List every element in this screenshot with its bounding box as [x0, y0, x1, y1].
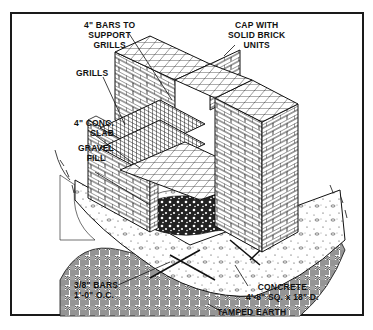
label-gravel-fill: GRAVEL FILL: [78, 143, 114, 163]
label-cap: CAP WITH SOLID BRICK UNITS: [228, 20, 285, 50]
label-line: TAMPED EARTH: [217, 307, 286, 317]
label-line: GRILLS: [76, 68, 108, 78]
label-concrete-footing: CONCRETE 4'-8" SQ. x 18" D.: [246, 282, 319, 302]
label-line: SUPPORT: [84, 30, 135, 40]
label-line: 4'-8" SQ. x 18" D.: [246, 292, 319, 302]
right-pillar-front: [215, 98, 262, 252]
label-tamped-earth: TAMPED EARTH: [217, 307, 286, 317]
label-line: 3/8" BARS: [74, 280, 118, 290]
label-line: FILL: [78, 153, 114, 163]
label-line: UNITS: [228, 40, 285, 50]
label-line: 1'-0" O.C.: [74, 290, 118, 300]
label-line: GRILLS: [84, 40, 135, 50]
label-concrete-slab: 4" CONC. SLAB: [74, 118, 114, 138]
label-line: CAP WITH: [228, 20, 285, 30]
label-line: 4" BARS TO: [84, 20, 135, 30]
label-line: SOLID BRICK: [228, 30, 285, 40]
label-line: GRAVEL: [78, 143, 114, 153]
label-grills: GRILLS: [76, 68, 108, 78]
right-pillar-side: [262, 104, 298, 252]
label-rebar: 3/8" BARS 1'-0" O.C.: [74, 280, 118, 300]
label-line: SLAB: [74, 128, 114, 138]
label-line: CONCRETE: [246, 282, 319, 292]
label-support-bars: 4" BARS TO SUPPORT GRILLS: [84, 20, 135, 50]
barbecue-illustration: [0, 0, 373, 330]
label-line: 4" CONC.: [74, 118, 114, 128]
